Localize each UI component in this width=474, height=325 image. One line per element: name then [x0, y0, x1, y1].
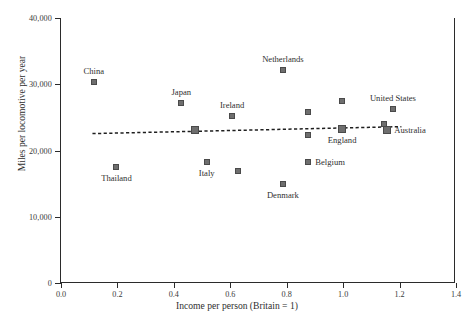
- data-point: [229, 113, 235, 119]
- data-point-label: United States: [370, 93, 416, 103]
- x-tick-mark: [117, 283, 118, 288]
- data-point: [305, 159, 311, 165]
- x-tick-mark: [456, 283, 457, 288]
- x-tick-label: 1.2: [394, 290, 404, 299]
- data-point: [235, 168, 241, 174]
- x-tick-mark: [230, 283, 231, 288]
- y-axis-title: Miles per locomotive per year: [16, 0, 27, 239]
- data-point: [280, 181, 286, 187]
- data-point: [390, 106, 396, 112]
- x-tick-label: 0.6: [225, 290, 235, 299]
- trendline: [60, 18, 455, 283]
- data-point-label: Netherlands: [262, 54, 304, 64]
- data-point-label: Denmark: [267, 190, 299, 200]
- data-point: [191, 126, 199, 134]
- data-point: [91, 79, 97, 85]
- data-point: [338, 125, 346, 133]
- data-point: [113, 164, 119, 170]
- x-tick-mark: [400, 283, 401, 288]
- data-point-label: Belgium: [315, 157, 345, 167]
- data-point-label: Thailand: [101, 173, 132, 183]
- data-point: [280, 67, 286, 73]
- data-point-label: Japan: [172, 87, 192, 97]
- data-point-label: China: [84, 66, 105, 76]
- data-point-label: Ireland: [220, 100, 244, 110]
- x-axis-title: Income per person (Britain = 1): [0, 300, 474, 311]
- x-tick-label: 1.4: [451, 290, 461, 299]
- y-tick-label: 20,000: [29, 146, 52, 155]
- data-point-label: England: [328, 135, 357, 145]
- x-tick-label: 1.0: [338, 290, 348, 299]
- x-tick-mark: [174, 283, 175, 288]
- y-tick-label: 40,000: [29, 14, 52, 23]
- y-tick-label: 0: [48, 279, 52, 288]
- x-tick-mark: [287, 283, 288, 288]
- data-point: [339, 98, 345, 104]
- x-tick-label: 0.2: [112, 290, 122, 299]
- scatter-chart-figure: 010,00020,00030,00040,0000.00.20.40.60.8…: [0, 0, 474, 325]
- x-tick-label: 0.8: [282, 290, 292, 299]
- data-point: [204, 159, 210, 165]
- data-point: [305, 132, 311, 138]
- x-tick-mark: [61, 283, 62, 288]
- data-point: [383, 126, 391, 134]
- data-point-label: Australia: [394, 125, 426, 135]
- data-point-label: Italy: [199, 168, 215, 178]
- y-tick-label: 10,000: [29, 212, 52, 221]
- x-tick-label: 0.4: [169, 290, 179, 299]
- plot-area: ChinaThailandJapanItalyIrelandDenmarkNet…: [60, 18, 455, 283]
- y-tick-label: 30,000: [29, 80, 52, 89]
- x-tick-mark: [343, 283, 344, 288]
- x-tick-label: 0.0: [56, 290, 66, 299]
- data-point: [305, 109, 311, 115]
- data-point: [178, 100, 184, 106]
